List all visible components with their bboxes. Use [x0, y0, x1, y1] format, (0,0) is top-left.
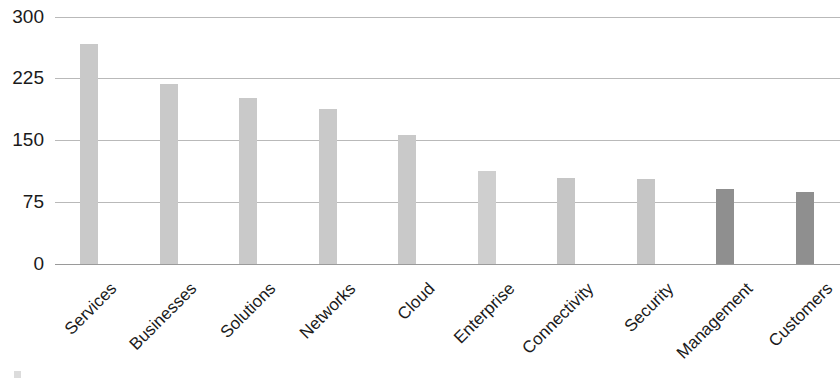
x-tick-label: Services [61, 279, 121, 339]
bar [557, 178, 575, 264]
bar [796, 192, 814, 264]
x-tick-label: Customers [764, 279, 836, 351]
plot-area [55, 0, 840, 265]
x-tick-label: Connectivity [519, 279, 599, 359]
y-tick-label: 225 [12, 67, 44, 89]
y-axis: 300 225 150 75 0 [0, 0, 52, 265]
bar [80, 44, 98, 264]
bar [398, 135, 416, 264]
bar-chart: 300 225 150 75 0 ServicesBusinessesSolut… [0, 0, 840, 388]
bar [716, 189, 734, 264]
bar [637, 179, 655, 264]
gridline-300 [55, 17, 840, 18]
x-axis: ServicesBusinessesSolutionsNetworksCloud… [0, 265, 840, 388]
y-tick-label: 75 [23, 191, 44, 213]
x-tick-label: Cloud [394, 279, 440, 325]
scan-artifact [14, 371, 21, 378]
x-tick-label: Enterprise [450, 279, 519, 348]
bar [239, 98, 257, 264]
y-tick-label: 300 [12, 6, 44, 28]
x-tick-label: Networks [295, 279, 359, 343]
x-tick-label: Security [620, 279, 678, 337]
bar [319, 109, 337, 264]
x-tick-label: Solutions [217, 279, 281, 343]
y-tick-label: 150 [12, 129, 44, 151]
x-tick-label: Management [673, 279, 757, 363]
bar [478, 171, 496, 264]
gridline-225 [55, 78, 840, 79]
bar [160, 84, 178, 264]
x-tick-label: Businesses [125, 279, 201, 355]
